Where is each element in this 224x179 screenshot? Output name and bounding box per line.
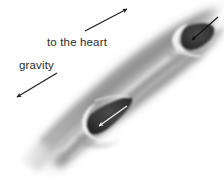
gravity-label: gravity <box>19 60 54 72</box>
vein-diagram-svg <box>0 0 224 179</box>
vein-valve-illustration: to the heart gravity <box>0 0 224 179</box>
to-the-heart-arrow <box>85 9 127 31</box>
gravity-arrow <box>17 73 57 97</box>
to-the-heart-label: to the heart <box>47 37 107 49</box>
